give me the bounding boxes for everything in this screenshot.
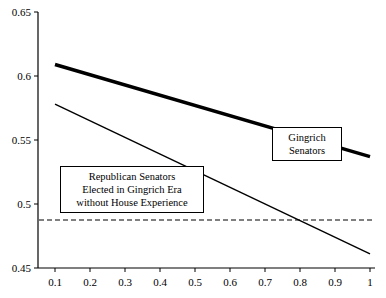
annotation-republican-senators: Republican Senators Elected in Gingrich … xyxy=(60,166,204,213)
y-tick-label-0.45: 0.45 xyxy=(0,262,31,274)
y-tick-label-0.6: 0.6 xyxy=(0,70,31,82)
y-tick-label-0.65: 0.65 xyxy=(0,6,31,18)
x-tick-label-0.6: 0.6 xyxy=(218,276,242,288)
y-tick-label-0.5: 0.5 xyxy=(0,198,31,210)
annotation-republican-line-3: without House Experience xyxy=(66,196,198,209)
annotation-gingrich-senators: Gingrich Senators xyxy=(272,127,342,161)
x-tick-label-0.9: 0.9 xyxy=(323,276,347,288)
x-tick-label-1: 1 xyxy=(358,276,382,288)
chart-container: 0.65 0.6 0.55 0.5 0.45 0.1 0.2 0.3 0.4 0… xyxy=(0,0,386,298)
y-tick-label-0.55: 0.55 xyxy=(0,134,31,146)
x-tick-label-0.1: 0.1 xyxy=(43,276,67,288)
annotation-gingrich-line-1: Gingrich xyxy=(278,131,336,144)
x-tick-label-0.5: 0.5 xyxy=(183,276,207,288)
x-tick-label-0.3: 0.3 xyxy=(113,276,137,288)
x-tick-label-0.8: 0.8 xyxy=(288,276,312,288)
annotation-republican-line-2: Elected in Gingrich Era xyxy=(66,183,198,196)
annotation-republican-line-1: Republican Senators xyxy=(66,170,198,183)
x-tick-label-0.2: 0.2 xyxy=(78,276,102,288)
x-tick-label-0.7: 0.7 xyxy=(253,276,277,288)
annotation-gingrich-line-2: Senators xyxy=(278,144,336,157)
x-tick-label-0.4: 0.4 xyxy=(148,276,172,288)
